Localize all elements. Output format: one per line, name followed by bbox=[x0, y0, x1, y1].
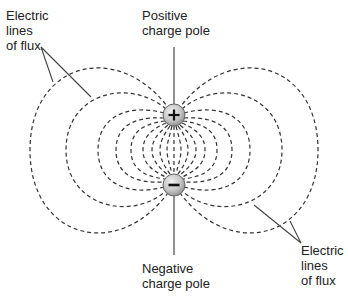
negative-pole bbox=[163, 174, 185, 196]
flux-label-line: of flux bbox=[301, 273, 344, 288]
flux-label-line: lines bbox=[6, 23, 49, 38]
flux-pointer-bottom-right bbox=[254, 205, 301, 243]
flux-label-line: Electric bbox=[6, 8, 49, 23]
positive-pole-label-line: charge pole bbox=[142, 23, 210, 38]
negative-pole-label-line: Negative bbox=[142, 261, 210, 276]
flux-label-bottom-right: Electric lines of flux bbox=[301, 243, 344, 288]
positive-pole-label: Positive charge pole bbox=[142, 8, 210, 38]
flux-label-line: of flux bbox=[6, 38, 49, 53]
negative-pole-label-line: charge pole bbox=[142, 276, 210, 291]
positive-pole bbox=[163, 104, 185, 126]
negative-pole-label: Negative charge pole bbox=[142, 261, 210, 291]
flux-label-line: Electric bbox=[301, 243, 344, 258]
flux-pointer-top-left bbox=[41, 47, 91, 97]
flux-label-top-left: Electric lines of flux bbox=[6, 8, 49, 53]
positive-pole-label-line: Positive bbox=[142, 8, 210, 23]
field-lines-graphic bbox=[0, 0, 348, 300]
electric-field-diagram: Electric lines of flux Positive charge p… bbox=[0, 0, 348, 300]
flux-label-line: lines bbox=[301, 258, 344, 273]
